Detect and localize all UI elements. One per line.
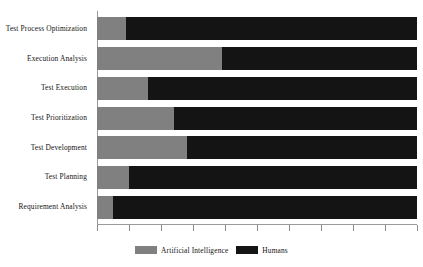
x-axis-tick [385,225,386,231]
y-axis-label-row: Test Planning [0,163,92,193]
bar-segment-artificial-intelligence[interactable] [97,136,187,159]
bar-track[interactable] [97,166,417,189]
bar-segment-artificial-intelligence[interactable] [97,166,129,189]
y-axis-label-row: Test Development [0,133,92,163]
bar-track[interactable] [97,47,417,70]
bar-row [97,103,417,133]
bar-segment-humans[interactable] [126,17,417,40]
bar-segment-humans[interactable] [113,196,417,219]
x-axis-tick [129,225,130,231]
y-axis-label-row: Requirement Analysis [0,192,92,222]
bar-segment-artificial-intelligence[interactable] [97,77,148,100]
y-axis-label-execution-analysis: Execution Analysis [27,55,87,63]
bar-series-container [97,14,417,222]
bar-row [97,14,417,44]
y-axis-label-requirement-analysis: Requirement Analysis [19,203,87,211]
bar-segment-artificial-intelligence[interactable] [97,196,113,219]
y-axis-label-row: Test Process Optimization [0,14,92,44]
x-axis-tick [353,225,354,231]
bar-segment-artificial-intelligence[interactable] [97,47,222,70]
x-axis-tick [289,225,290,231]
y-axis-label-test-prioritization: Test Prioritization [31,114,87,122]
legend-swatch-humans-icon [236,246,258,254]
bar-segment-humans[interactable] [148,77,417,100]
plot-area [97,11,417,225]
bar-track[interactable] [97,107,417,130]
bar-row [97,44,417,74]
bar-track[interactable] [97,136,417,159]
legend-entry-artificial-intelligence[interactable]: Artificial Intelligence [135,246,228,255]
legend-swatch-ai-icon [135,246,157,254]
bar-segment-artificial-intelligence[interactable] [97,107,174,130]
y-axis-label-test-development: Test Development [31,144,87,152]
x-axis-tick [161,225,162,231]
x-axis-ticks [97,225,417,231]
bar-row [97,73,417,103]
y-axis-label-test-planning: Test Planning [45,173,87,181]
y-axis-label-test-execution: Test Execution [41,84,87,92]
x-axis-tick [225,225,226,231]
bar-segment-humans[interactable] [174,107,417,130]
legend-entry-humans[interactable]: Humans [236,246,288,255]
bar-row [97,192,417,222]
x-axis-tick [257,225,258,231]
legend-label-artificial-intelligence: Artificial Intelligence [161,246,228,255]
y-axis-label-test-process-optimization: Test Process Optimization [6,25,87,33]
chart-legend: Artificial Intelligence Humans [0,243,423,257]
bar-row [97,163,417,193]
bar-segment-humans[interactable] [129,166,417,189]
bar-segment-artificial-intelligence[interactable] [97,17,126,40]
x-axis-tick [97,225,98,231]
bar-track[interactable] [97,77,417,100]
y-axis-label-row: Test Prioritization [0,103,92,133]
x-axis-tick [321,225,322,231]
bar-segment-humans[interactable] [187,136,417,159]
bar-track[interactable] [97,196,417,219]
y-axis-label-row: Execution Analysis [0,44,92,74]
stacked-bar-chart: Test Process Optimization Execution Anal… [0,0,423,267]
x-axis-tick [417,225,418,231]
bar-row [97,133,417,163]
bar-segment-humans[interactable] [222,47,417,70]
bar-track[interactable] [97,17,417,40]
y-axis-category-labels: Test Process Optimization Execution Anal… [0,14,92,222]
x-axis-tick [193,225,194,231]
y-axis-label-row: Test Execution [0,73,92,103]
legend-label-humans: Humans [262,246,288,255]
